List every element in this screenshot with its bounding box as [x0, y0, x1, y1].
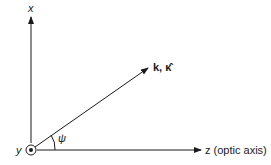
wave-vector-diagram: x z (optic axis) k, κ̂ ψ y — [0, 0, 271, 165]
angle-psi-label: ψ — [58, 132, 66, 144]
k-vector-label: k, κ̂ — [153, 61, 173, 73]
y-axis-out-of-page-icon — [26, 145, 36, 155]
angle-arc — [51, 135, 55, 150]
k-vector-arrow — [35, 68, 148, 147]
x-axis-label: x — [27, 2, 34, 14]
y-axis-label: y — [15, 144, 23, 156]
z-axis-label: z (optic axis) — [205, 144, 267, 156]
